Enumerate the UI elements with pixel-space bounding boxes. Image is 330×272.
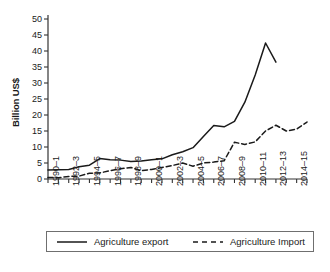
- legend-label-agriculture-import: Agriculture Import: [230, 237, 305, 247]
- chart-axes: [44, 15, 307, 183]
- figure-caption: [0, 264, 330, 272]
- series-line-agriculture-export: [48, 43, 276, 170]
- legend-swatch-solid-line: [57, 237, 87, 247]
- legend-label-agriculture-export: Agriculture export: [94, 237, 168, 247]
- legend-item-agriculture-import: Agriculture Import: [193, 232, 305, 251]
- chart-figure: Billion US$ 05101520253035404550 1990–11…: [0, 0, 330, 272]
- series-line-agriculture-import: [48, 122, 307, 178]
- chart-legend: Agriculture export Agriculture Import: [46, 231, 314, 252]
- x-axis-ticks: [48, 179, 307, 183]
- legend-item-agriculture-export: Agriculture export: [57, 232, 168, 251]
- legend-swatch-dashed-line: [193, 237, 223, 247]
